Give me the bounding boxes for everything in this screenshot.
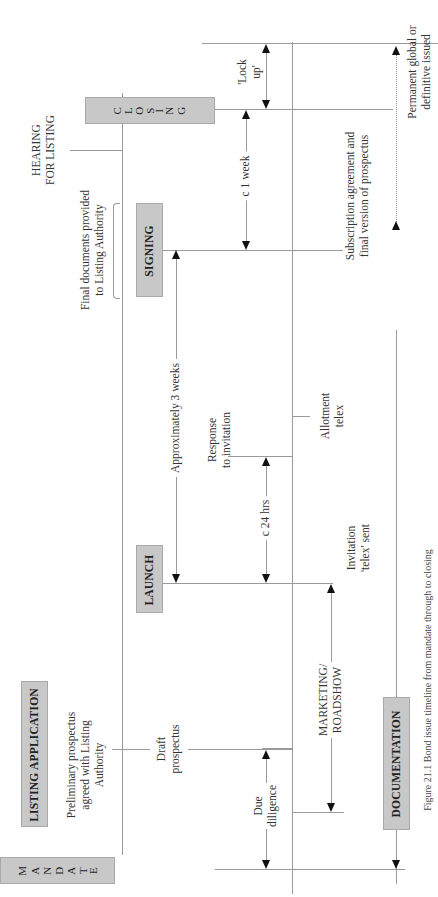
draft-prospectus-line-a — [112, 749, 150, 750]
subscription-line-2: final version of prospectus — [358, 132, 372, 260]
prelim-line-1: Preliminary prospectus — [65, 712, 79, 818]
hearing-line-2: FOR LISTING — [44, 115, 58, 185]
process-spine — [292, 42, 293, 894]
subscription-agreement-label: Subscription agreement and final version… — [344, 132, 372, 260]
mandate-letter: E — [86, 867, 102, 874]
response-line — [228, 456, 292, 457]
signing-label: SIGNING — [143, 225, 157, 276]
closing-box: C L O S I N G — [85, 97, 215, 124]
signing-line — [163, 250, 343, 251]
final-documents-brace — [113, 203, 120, 299]
allotment-telex-label: Allotment telex — [319, 393, 347, 440]
arrow-down-icon — [242, 241, 250, 250]
signing-box: SIGNING — [136, 203, 163, 297]
invitation-telex-label: Invitation 'telex' sent — [345, 524, 373, 572]
draft-line-2: prospectus — [169, 724, 183, 773]
arrow-up-icon — [262, 457, 270, 466]
closing-letter: G — [174, 107, 190, 115]
listing-spine — [122, 93, 123, 855]
allotment-line — [292, 416, 310, 417]
documentation-label: DOCUMENTATION — [390, 711, 404, 818]
launch-box: LAUNCH — [136, 545, 163, 613]
arrow-up-icon — [392, 46, 400, 55]
c-1-week-label: c 1 week — [239, 152, 253, 201]
hearing-line — [70, 150, 122, 151]
arrow-up-icon — [392, 221, 400, 230]
arrow-down-icon — [262, 100, 270, 109]
permanent-line-1: Permanent global or — [406, 25, 420, 118]
allotment-line-1: Allotment — [319, 393, 333, 440]
arrow-up-icon — [262, 44, 270, 53]
lockup-line-1: 'Lock — [236, 59, 250, 85]
arrow-up-icon — [242, 110, 250, 119]
lock-up-shaft — [266, 51, 267, 102]
arrow-down-icon — [262, 574, 270, 583]
lockup-end-line — [202, 43, 438, 44]
roadshow-line-2: ROADSHOW — [331, 664, 345, 736]
arrow-up-icon — [262, 750, 270, 759]
response-line-2: to invitation — [220, 412, 234, 468]
mandate-line — [215, 869, 405, 870]
final-docs-line-1: Final documents provided — [79, 190, 93, 310]
hearing-line-1: HEARING — [30, 115, 44, 185]
mandate-box: M A N D A T E — [0, 857, 115, 884]
due-line-2: diligence — [266, 785, 280, 827]
figure-caption: Figure 21.1 Bond issue timeline from man… — [422, 549, 434, 811]
roadshow-line-1: MARKETING/ — [317, 664, 331, 736]
hearing-for-listing-label: HEARING FOR LISTING — [30, 115, 58, 185]
arrow-up-icon — [172, 250, 180, 259]
invitation-line-1: Invitation — [345, 524, 359, 572]
subscription-line-1: Subscription agreement and — [344, 132, 358, 260]
draft-line-1: Draft — [155, 724, 169, 773]
arrow-down-icon — [262, 860, 270, 869]
permanent-line-2: definitive issued — [420, 25, 434, 118]
draft-prospectus-label: Draft prospectus — [155, 724, 183, 773]
marketing-roadshow-label: MARKETING/ ROADSHOW — [313, 662, 349, 738]
due-diligence-start-line — [262, 748, 292, 749]
draft-prospectus-line-b — [188, 749, 292, 750]
response-line-1: Response — [206, 412, 220, 468]
invitation-line-2: 'telex' sent — [359, 524, 373, 572]
preliminary-prospectus-label: Preliminary prospectus agreed with Listi… — [65, 712, 106, 818]
launch-line — [163, 583, 333, 584]
prelim-line-3: Authority — [93, 712, 107, 818]
final-documents-label: Final documents provided to Listing Auth… — [79, 190, 107, 310]
due-diligence-label: Due diligence — [248, 783, 284, 829]
allotment-line-2: telex — [333, 393, 347, 440]
roadshow-end-line — [292, 812, 344, 813]
arrow-up-icon — [327, 584, 335, 593]
final-docs-line-2: to Listing Authority — [93, 190, 107, 310]
lock-up-label: 'Lock up' — [236, 59, 264, 85]
launch-label: LAUNCH — [143, 554, 157, 605]
listing-application-label: LISTING APPLICATION — [28, 688, 42, 822]
arrow-down-icon — [327, 803, 335, 812]
arrow-down-icon — [392, 860, 400, 869]
response-to-invitation-label: Response to invitation — [206, 412, 234, 468]
arrow-down-icon — [172, 574, 180, 583]
due-line-1: Due — [252, 785, 266, 827]
c-24-hrs-label: c 24 hrs — [259, 496, 273, 540]
prelim-line-2: agreed with Listing — [79, 712, 93, 818]
documentation-dotted — [396, 51, 397, 224]
approx-3-weeks-label: Approximately 3 weeks — [169, 359, 183, 477]
permanent-global-label: Permanent global or definitive issued — [406, 25, 434, 118]
lockup-line-2: up' — [250, 59, 264, 85]
documentation-box: DOCUMENTATION — [383, 697, 410, 830]
listing-application-box: LISTING APPLICATION — [21, 681, 48, 827]
